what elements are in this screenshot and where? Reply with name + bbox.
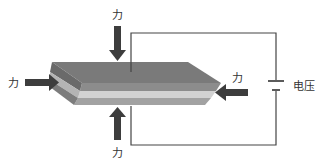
force-label-top: 力	[112, 10, 123, 22]
arrow-down-icon	[109, 26, 126, 61]
block-front-light	[78, 91, 216, 98]
piezo-block	[50, 62, 221, 105]
block-front-lower	[74, 98, 211, 105]
diagram-svg	[0, 0, 325, 167]
arrow-left-icon	[215, 84, 248, 101]
force-label-left: 力	[8, 78, 19, 90]
piezoelectric-diagram: 力 力 力 力 电压	[0, 0, 325, 167]
voltage-label: 电压	[293, 81, 315, 93]
force-label-right: 力	[232, 73, 243, 85]
block-front-upper	[80, 83, 221, 91]
battery-icon	[268, 81, 284, 90]
force-label-bottom: 力	[112, 148, 123, 160]
arrow-up-icon	[109, 107, 126, 140]
